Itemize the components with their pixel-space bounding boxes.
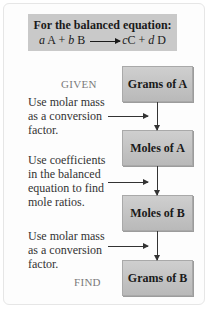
coef-a: a [39,33,45,47]
right-arrow-icon [108,246,148,247]
species-D: D [157,33,166,47]
coef-d: d [148,33,154,47]
find-label: FIND [74,276,101,288]
box-grams-of-a: Grams of A [122,66,193,102]
down-arrow-icon [157,166,158,195]
right-arrow-icon [108,182,148,183]
box-grams-of-b: Grams of B [122,260,193,296]
right-arrow-icon [108,116,148,117]
coef-b: b [68,33,74,47]
note-molar-mass-1: Use molar mass as a conversion factor. [28,95,108,137]
species-B: B [77,33,85,47]
plus-sign: + [58,33,65,47]
reaction-arrow-icon [90,41,120,42]
header-title: For the balanced equation: [28,18,177,32]
down-arrow-icon [157,102,158,130]
plus-sign: + [139,33,146,47]
box-moles-of-a: Moles of A [122,130,193,166]
note-coefficients: Use coefficients in the balanced equatio… [28,153,108,209]
equation-header: For the balanced equation: a A + b B cC … [28,14,177,51]
balanced-equation: a A + b B cC + d D [28,33,177,47]
species-A: A [47,33,55,47]
down-arrow-icon [157,231,158,260]
note-molar-mass-2: Use molar mass as a conversion factor. [28,229,108,271]
given-label: GIVEN [61,78,97,90]
box-moles-of-b: Moles of B [122,195,193,231]
species-C: C [128,33,136,47]
